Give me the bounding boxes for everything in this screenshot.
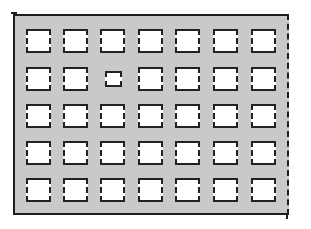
square (175, 29, 200, 53)
square (100, 104, 125, 128)
square (100, 178, 125, 202)
square (213, 104, 238, 128)
square (138, 67, 163, 91)
square (138, 178, 163, 202)
corner-mark-bottom-right (286, 213, 288, 219)
square (213, 29, 238, 53)
square (138, 29, 163, 53)
square (26, 141, 51, 165)
square (63, 178, 88, 202)
square (100, 141, 125, 165)
square (63, 104, 88, 128)
square (213, 67, 238, 91)
square (175, 141, 200, 165)
square (63, 29, 88, 53)
square (251, 104, 276, 128)
square (251, 29, 276, 53)
square (175, 67, 200, 91)
square (26, 178, 51, 202)
square (26, 104, 51, 128)
square (26, 29, 51, 53)
corner-mark-top-left (11, 12, 17, 14)
square (63, 67, 88, 91)
square (138, 141, 163, 165)
square (213, 178, 238, 202)
square (100, 29, 125, 53)
square (251, 141, 276, 165)
square (175, 104, 200, 128)
small-square (105, 71, 122, 87)
square (175, 178, 200, 202)
square (251, 67, 276, 91)
square (26, 67, 51, 91)
square (251, 178, 276, 202)
square (213, 141, 238, 165)
square (138, 104, 163, 128)
square (63, 141, 88, 165)
